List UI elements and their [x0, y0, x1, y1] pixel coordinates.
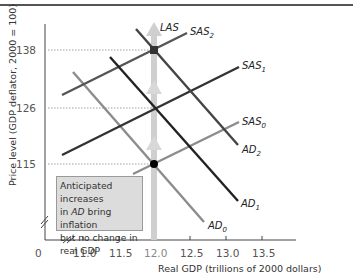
x-tick-13-0: 13.0: [216, 247, 239, 259]
annotation-box: Anticipated increases in AD bring inflat…: [56, 176, 143, 231]
ad1-label: AD1: [240, 198, 260, 212]
annotation-ad-term: AD: [71, 206, 84, 217]
sas0-label: SAS0: [242, 116, 267, 130]
y-tick-138: 138: [16, 44, 36, 56]
annotation-text: in: [60, 206, 71, 217]
x-axis-title: Real GDP (trillions of 2000 dollars): [158, 263, 322, 274]
x-tick-12-0: 12.0: [144, 247, 167, 259]
ad2-label: AD2: [241, 144, 262, 158]
x-tick-13-5: 13.5: [252, 247, 275, 259]
annotation-line-3: but no change in: [60, 231, 139, 244]
equilibrium-point-138: [150, 46, 158, 54]
sas1-curve: [62, 67, 239, 155]
sas1-label: SAS1: [242, 60, 266, 74]
y-tick-115: 115: [16, 158, 36, 170]
ad0-label: AD0: [207, 220, 228, 234]
annotation-line-1: Anticipated increases: [60, 179, 139, 205]
top-border: [0, 4, 353, 6]
x-tick-0: 0: [35, 247, 42, 259]
annotation-line-4: real GDP: [60, 244, 139, 257]
equilibrium-point-115: [150, 160, 158, 168]
x-tick-12-5: 12.5: [180, 247, 203, 259]
y-axis-title: Price level (GDP deflator, 2000 = 100): [7, 4, 18, 186]
las-label: LAS: [160, 22, 179, 33]
chart: 138 126 115 0 11.0 11.5 12.0 12.5 13.0 1…: [0, 0, 353, 278]
sas2-label: SAS2: [190, 26, 215, 40]
y-tick-126: 126: [16, 102, 36, 114]
annotation-line-2: in AD bring inflation: [60, 205, 139, 231]
arrow-up-icon: [146, 136, 162, 150]
arrow-up-icon: [146, 80, 162, 94]
